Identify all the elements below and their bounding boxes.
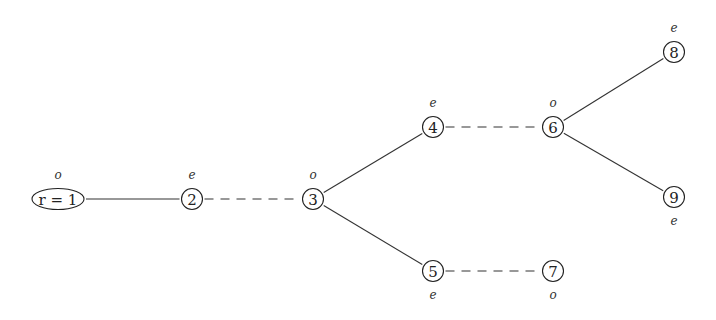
edge-6-9-solid	[564, 133, 663, 190]
node-6: 6o	[543, 96, 564, 138]
parity-label: o	[309, 168, 316, 182]
node-5: 5e	[423, 261, 444, 303]
tree-diagram: r = 1o2e3o4e5e6o7o8e9e	[0, 0, 716, 320]
node-2: 2e	[182, 168, 203, 210]
parity-label: e	[429, 96, 436, 110]
node-label: 4	[428, 119, 438, 137]
node-4: 4e	[423, 96, 444, 138]
node-label: 2	[187, 191, 197, 209]
parity-label: o	[549, 96, 556, 110]
parity-label: e	[429, 288, 436, 302]
edges-group	[86, 59, 663, 271]
edge-3-5-solid	[324, 205, 423, 264]
parity-label: o	[54, 168, 61, 182]
node-8: 8e	[664, 21, 685, 63]
node-9: 9e	[664, 187, 685, 229]
parity-label: e	[670, 21, 677, 35]
node-label: r = 1	[39, 191, 78, 209]
node-label: 3	[308, 191, 318, 209]
edge-3-4-solid	[324, 133, 423, 192]
node-label: 9	[669, 189, 679, 207]
node-7: 7o	[543, 261, 564, 303]
node-label: 8	[669, 44, 679, 62]
nodes-group: r = 1o2e3o4e5e6o7o8e9e	[32, 21, 685, 302]
node-1: r = 1o	[32, 168, 84, 210]
parity-label: e	[670, 214, 677, 228]
node-3: 3o	[303, 168, 324, 210]
parity-label: o	[549, 288, 556, 302]
node-label: 5	[428, 263, 438, 281]
parity-label: e	[188, 168, 195, 182]
node-label: 7	[548, 263, 558, 281]
edge-6-8-solid	[564, 59, 664, 121]
node-label: 6	[548, 119, 558, 137]
